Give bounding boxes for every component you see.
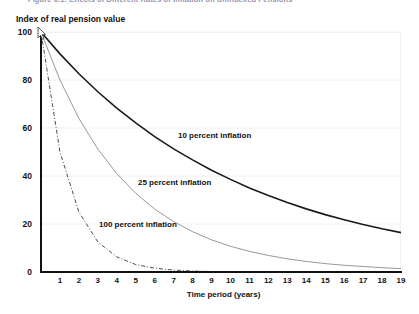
x-tick-label: 2 [70, 276, 88, 285]
y-tick-label: 100 [2, 27, 32, 37]
x-tick-label: 5 [127, 276, 145, 285]
y-tick-label: 60 [2, 123, 32, 133]
x-tick-label: 1 [51, 276, 69, 285]
x-tick-label: 13 [278, 276, 296, 285]
plot-area [41, 32, 401, 272]
y-axis-line [40, 31, 42, 273]
x-tick-label: 4 [108, 276, 126, 285]
chart-canvas [41, 32, 401, 272]
figure-title: Figure 6.1: Effects of Different Rates o… [28, 0, 292, 4]
x-tick-label: 8 [184, 276, 202, 285]
x-tick-label: 6 [146, 276, 164, 285]
x-tick-label: 11 [240, 276, 258, 285]
x-tick-label: 15 [316, 276, 334, 285]
gridlines [41, 32, 401, 224]
x-tick-label: 12 [259, 276, 277, 285]
x-tick-label: 16 [335, 276, 353, 285]
x-tick-label: 18 [373, 276, 391, 285]
x-tick-label: 7 [165, 276, 183, 285]
series-label-25-percent: 25 percent inflation [138, 178, 211, 187]
y-axis-title: Index of real pension value [16, 14, 125, 24]
x-tick-label: 19 [392, 276, 410, 285]
y-tick-label: 40 [2, 171, 32, 181]
y-tick-label: 20 [2, 219, 32, 229]
x-tick-label: 10 [221, 276, 239, 285]
x-tick-label: 9 [203, 276, 221, 285]
series-label-100-percent: 100 percent inflation [99, 220, 177, 229]
x-tick-label: 3 [89, 276, 107, 285]
mouse-cursor-icon [38, 27, 47, 41]
y-tick-label: 0 [2, 267, 32, 277]
series-line-100-percent [41, 32, 401, 272]
series-line-25-percent [41, 32, 401, 269]
x-tick-label: 17 [354, 276, 372, 285]
x-tick-label: 14 [297, 276, 315, 285]
series-label-10-percent: 10 percent inflation [178, 131, 251, 140]
x-axis-line [40, 271, 402, 273]
x-axis-title: Time period (years) [0, 290, 419, 299]
y-tick-label: 80 [2, 75, 32, 85]
